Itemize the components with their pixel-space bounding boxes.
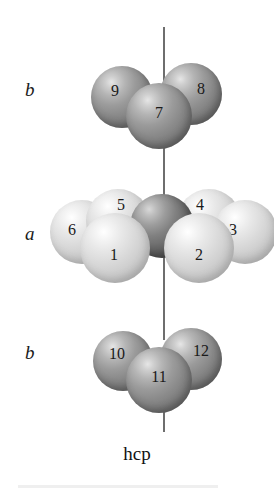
figure-caption: hcp [0,443,274,465]
atom-label-1: 1 [79,220,149,290]
layer-label-middle-a: a [25,223,35,245]
footer-divider [18,485,218,488]
atom-label-2: 2 [164,220,234,290]
atom-sphere-11: 11 [126,347,192,413]
atom-sphere-7: 7 [126,83,192,149]
stacking-axis-line-segment-lower-middle [163,252,165,340]
hcp-structure-figure: 9 8 7 b 6 5 4 3 1 2 a 10 12 11 b [0,0,274,496]
layer-label-bottom-b: b [25,342,35,364]
atom-sphere-2: 2 [164,213,234,283]
layer-label-top-b: b [25,79,35,101]
atom-sphere-1: 1 [80,213,150,283]
